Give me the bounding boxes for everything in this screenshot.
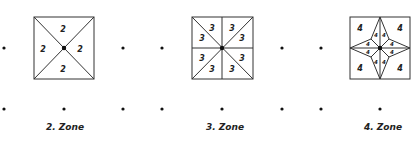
zone-4-label: 4. Zone [363,122,402,132]
center-dot [62,46,66,50]
svg-text:4: 4 [374,59,378,65]
svg-text:4: 4 [382,32,386,38]
svg-text:2: 2 [60,25,66,34]
svg-text:3: 3 [239,54,245,63]
svg-text:4: 4 [390,49,394,55]
zone-diagram: 2 2 2 2 3 3 3 3 3 3 3 3 4 4 4 4 4 4 4 4 … [0,0,414,149]
svg-text:4: 4 [366,41,370,47]
svg-text:4: 4 [356,64,363,73]
svg-text:4: 4 [366,49,370,55]
center-dot [378,46,382,50]
svg-text:2: 2 [60,65,66,74]
svg-text:3: 3 [239,34,245,43]
svg-text:4: 4 [374,32,378,38]
svg-text:4: 4 [396,64,403,73]
svg-text:4: 4 [390,41,394,47]
svg-text:2: 2 [40,45,46,54]
zone-3-label: 3. Zone [206,122,244,132]
svg-text:4: 4 [396,24,403,33]
zone-2-label: 2. Zone [46,122,84,132]
svg-text:4: 4 [356,24,363,33]
svg-text:3: 3 [209,24,215,33]
svg-text:4: 4 [382,59,386,65]
center-dot [220,46,224,50]
svg-text:2: 2 [77,45,83,54]
svg-text:3: 3 [199,54,205,63]
svg-text:3: 3 [229,65,235,74]
svg-text:3: 3 [209,65,215,74]
svg-text:3: 3 [229,24,235,33]
svg-text:3: 3 [199,34,205,43]
